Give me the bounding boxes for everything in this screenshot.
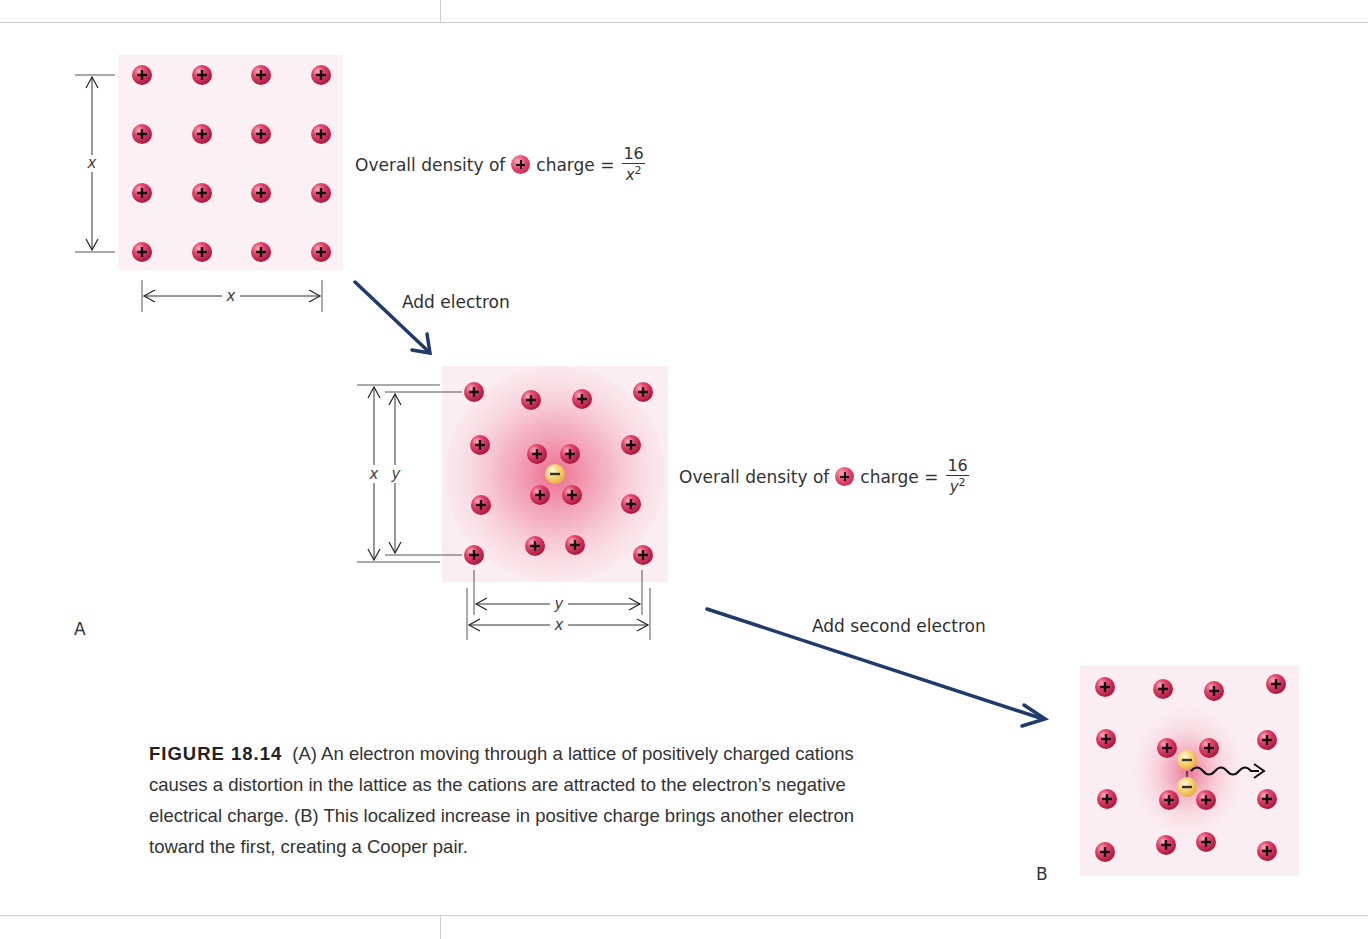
panel-a-lattice: [118, 55, 343, 270]
fraction-numerator: 16: [622, 146, 644, 164]
panel-a-letter: A: [74, 619, 86, 639]
electron-pair-bottom: [1177, 777, 1197, 797]
density-suffix: charge =: [860, 467, 938, 487]
figure-caption: FIGURE 18.14(A) An electron moving throu…: [149, 738, 879, 862]
density-prefix: Overall density of: [355, 155, 505, 175]
density-fraction: 16 x2: [622, 146, 644, 183]
density-prefix: Overall density of: [679, 467, 829, 487]
density-suffix: charge =: [536, 155, 614, 175]
density-fraction: 16 y2: [946, 458, 968, 495]
panel-middle-outer-label: x: [369, 465, 379, 483]
panel-a-density-formula: Overall density of charge = 16 x2: [355, 146, 645, 183]
fraction-denominator: x2: [626, 164, 642, 183]
figure-label: FIGURE 18.14: [149, 743, 282, 764]
panel-b-letter: B: [1036, 864, 1048, 884]
add-second-electron-label: Add second electron: [812, 616, 986, 636]
cation-icon: [511, 155, 530, 174]
panel-middle-lattice: [442, 366, 668, 582]
electron-pair-top: [1177, 750, 1197, 770]
add-electron-label: Add electron: [402, 292, 510, 312]
electron-1: [545, 464, 565, 484]
fraction-numerator: 16: [946, 458, 968, 476]
panel-middle-bottom-outer-label: x: [554, 616, 564, 634]
panel-b-lattice: [1080, 666, 1299, 876]
panel-middle-bottom-inner-label: y: [554, 595, 565, 613]
panel-middle-density-formula: Overall density of charge = 16 y2: [679, 458, 969, 495]
panel-a-bottom-label: x: [226, 287, 236, 305]
panel-middle-inner-label: y: [391, 465, 402, 483]
fraction-denominator: y2: [950, 476, 966, 495]
cation-icon: [835, 467, 854, 486]
panel-a-side-label: x: [87, 154, 97, 172]
